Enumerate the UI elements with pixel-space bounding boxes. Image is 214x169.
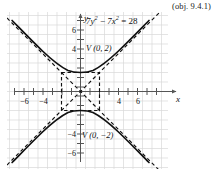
x-tick-label-4: 4 xyxy=(114,97,124,106)
x-tick-label-6: 6 xyxy=(133,97,143,106)
hyperbola-graph-figure: (obj. 9.4.1) xyxy=(0,0,214,169)
y-tick-label-neg6: −6 xyxy=(62,149,76,158)
equation-rhs: 28 xyxy=(128,16,137,26)
x-tick-label-neg4: −4 xyxy=(37,97,50,106)
x-tick-label-neg6: −6 xyxy=(18,97,31,106)
equation-annotation: 7y2 − 7x2 = 28 xyxy=(86,17,137,26)
grid-lines xyxy=(7,12,168,169)
y-tick-label-4: 4 xyxy=(66,45,76,54)
x-axis-label: x xyxy=(176,94,180,104)
y-tick-label-6: 6 xyxy=(66,26,76,35)
vertex-label-top: V (0, 2) xyxy=(86,44,112,53)
y-tick-label-neg4: −4 xyxy=(62,130,76,139)
vertex-label-bottom: V (0, −2) xyxy=(82,131,113,140)
